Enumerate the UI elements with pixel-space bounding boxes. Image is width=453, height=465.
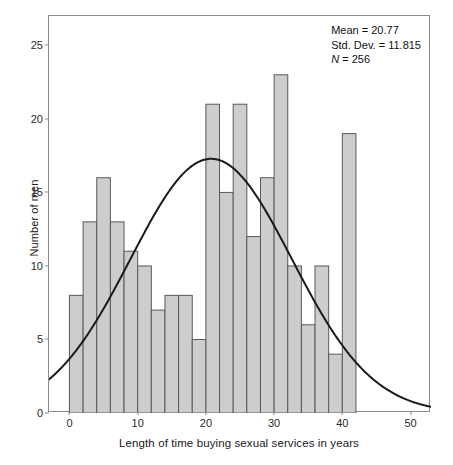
y-tick-label: 25 <box>31 40 43 51</box>
sample-size-value: = 256 <box>339 53 370 65</box>
x-tick-label: 40 <box>336 418 348 429</box>
histogram-bar <box>110 222 124 413</box>
histogram-bar <box>97 178 111 413</box>
x-tick-label: 50 <box>404 418 416 429</box>
histogram-bar <box>233 104 247 413</box>
histogram-bar <box>247 237 261 413</box>
histogram-bar <box>165 295 179 413</box>
y-tick-label: 5 <box>37 334 43 345</box>
x-tick-label: 30 <box>268 418 280 429</box>
x-tick-mark <box>137 411 138 415</box>
statistics-annotation: Mean = 20.77 Std. Dev. = 11.815 N = 256 <box>331 23 421 67</box>
mean-label: Mean = 20.77 <box>331 23 421 38</box>
x-tick-mark <box>274 411 275 415</box>
histogram-bars <box>69 75 356 413</box>
x-tick-mark <box>69 411 70 415</box>
x-tick-mark <box>342 411 343 415</box>
histogram-bar <box>138 266 152 413</box>
sample-size-symbol: N <box>331 53 339 65</box>
plot-area: 0510152025 01020304050 Mean = 20.77 Std.… <box>48 15 430 412</box>
histogram-figure: Number of men 0510152025 01020304050 Mea… <box>0 0 453 465</box>
histogram-bar <box>151 310 165 413</box>
histogram-bar <box>206 104 220 413</box>
y-tick-label: 20 <box>31 113 43 124</box>
x-tick-label: 20 <box>200 418 212 429</box>
x-tick-label: 10 <box>132 418 144 429</box>
y-tick-mark <box>45 45 49 46</box>
histogram-bar <box>69 295 83 413</box>
histogram-bar <box>315 266 329 413</box>
histogram-bar <box>342 134 356 413</box>
y-tick-label: 0 <box>37 408 43 419</box>
x-tick-mark <box>205 411 206 415</box>
x-axis-title: Length of time buying sexual services in… <box>48 437 430 449</box>
y-tick-label: 10 <box>31 260 43 271</box>
histogram-bar <box>288 266 302 413</box>
y-tick-mark <box>45 339 49 340</box>
histogram-bar <box>274 75 288 413</box>
y-tick-mark <box>45 265 49 266</box>
std-dev-label: Std. Dev. = 11.815 <box>331 38 421 53</box>
histogram-bar <box>124 251 138 413</box>
histogram-bar <box>192 339 206 413</box>
histogram-bar <box>220 192 234 413</box>
histogram-bar <box>329 354 343 413</box>
x-tick-label: 0 <box>66 418 72 429</box>
histogram-bar <box>301 325 315 413</box>
y-tick-mark <box>45 413 49 414</box>
y-tick-mark <box>45 118 49 119</box>
y-tick-label: 15 <box>31 187 43 198</box>
y-tick-mark <box>45 192 49 193</box>
plot-canvas <box>49 16 431 413</box>
histogram-bar <box>179 295 193 413</box>
x-tick-mark <box>410 411 411 415</box>
sample-size-label: N = 256 <box>331 52 421 67</box>
histogram-bar <box>83 222 97 413</box>
